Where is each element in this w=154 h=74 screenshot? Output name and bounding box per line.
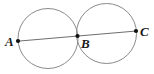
point-a-dot [16, 39, 20, 43]
point-c-dot [134, 29, 138, 33]
point-label-b: B [81, 37, 90, 50]
point-b-dot [75, 34, 79, 38]
point-label-c: C [140, 25, 149, 38]
geometry-diagram: A B C [0, 0, 154, 74]
point-label-a: A [5, 35, 14, 48]
geometry-canvas [0, 0, 154, 74]
